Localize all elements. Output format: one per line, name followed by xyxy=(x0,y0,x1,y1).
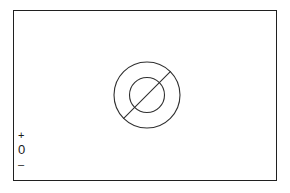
polarity-scale: + 0 – xyxy=(18,129,34,170)
polarity-mark-plus: + xyxy=(18,129,24,141)
diagonal-slash-line xyxy=(124,72,171,119)
polarity-mark-minus: – xyxy=(18,158,24,170)
polarity-mark-zero: 0 xyxy=(18,142,25,157)
concentric-circle-svg xyxy=(112,60,182,130)
diagram-frame: + 0 – xyxy=(13,10,277,181)
concentric-circle-symbol xyxy=(112,60,182,130)
figure-root: + 0 – xyxy=(0,0,290,193)
